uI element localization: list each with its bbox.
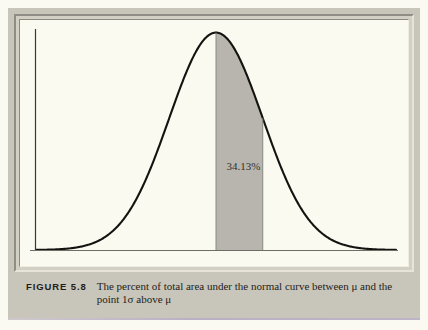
- normal-curve-svg: [20, 20, 406, 264]
- shaded-area-percent-label: 34.13%: [213, 160, 273, 172]
- chart-frame: 34.13% μ +1σ: [14, 14, 414, 272]
- figure-plate: 34.13% μ +1σ FIGURE 5.8 The percent of t…: [8, 8, 420, 320]
- normal-curve-chart: 34.13% μ +1σ: [19, 19, 409, 267]
- figure-number-label: FIGURE 5.8: [26, 281, 97, 292]
- shaded-area-region: [216, 33, 263, 250]
- plate-bottom-accent-line: [8, 318, 420, 320]
- figure-caption: FIGURE 5.8 The percent of total area und…: [18, 280, 412, 314]
- figure-caption-text: The percent of total area under the norm…: [97, 280, 412, 306]
